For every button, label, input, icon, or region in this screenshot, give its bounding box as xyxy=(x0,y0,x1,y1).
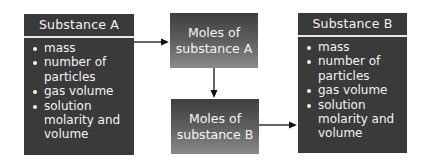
arrow-moles-b-to-b xyxy=(0,0,428,166)
